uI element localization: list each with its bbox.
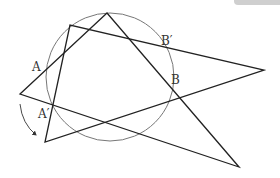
label-B-prime: B′ <box>161 34 173 48</box>
label-A: A <box>31 60 41 74</box>
circumcircle <box>46 13 174 141</box>
triangle-rotated <box>45 25 264 142</box>
triangle-original <box>20 13 239 167</box>
geometry-diagram: A A′ B′ B <box>0 0 280 178</box>
label-A-prime: A′ <box>37 107 50 121</box>
rotation-arrow-icon <box>20 104 36 135</box>
label-B: B <box>171 73 180 87</box>
